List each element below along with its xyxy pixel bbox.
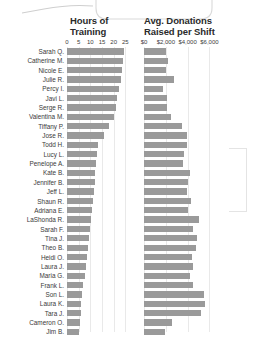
hours-bar[interactable] xyxy=(67,282,83,288)
chart-row[interactable]: Tiffany P. xyxy=(0,122,253,131)
chart-row[interactable]: Sarah F. xyxy=(0,225,253,234)
hours-bar[interactable] xyxy=(67,301,81,307)
chart-row[interactable]: Shaun R. xyxy=(0,197,253,206)
donations-bar[interactable] xyxy=(144,114,171,120)
donations-bar[interactable] xyxy=(144,273,190,279)
hours-bar[interactable] xyxy=(67,263,86,269)
hours-bar[interactable] xyxy=(67,273,85,279)
chart-row[interactable]: Tara J. xyxy=(0,309,253,318)
chart-row[interactable]: Nicole E. xyxy=(0,66,253,75)
donations-bar[interactable] xyxy=(144,160,183,166)
chart-row[interactable]: Javi L. xyxy=(0,94,253,103)
donations-bar[interactable] xyxy=(144,310,201,316)
chart-row[interactable]: Valentina M. xyxy=(0,112,253,121)
donations-bar[interactable] xyxy=(144,58,168,64)
chart-row[interactable]: Sarah Q. xyxy=(0,47,253,56)
chart-row[interactable]: Lucy L. xyxy=(0,150,253,159)
chart-row[interactable]: Frank L. xyxy=(0,281,253,290)
hours-bar[interactable] xyxy=(67,207,92,213)
donations-bar[interactable] xyxy=(144,95,167,101)
hours-bar[interactable] xyxy=(67,95,117,101)
hours-bar[interactable] xyxy=(67,123,109,129)
chart-row[interactable]: Serge R. xyxy=(0,103,253,112)
donations-axis-ticks: $0$2,000$4,000$6,000 xyxy=(0,38,253,47)
chart-row[interactable]: Kate B. xyxy=(0,168,253,177)
donations-bar[interactable] xyxy=(144,67,166,73)
donations-bar[interactable] xyxy=(144,76,174,82)
chart-row[interactable]: Heidi O. xyxy=(0,253,253,262)
donations-bar[interactable] xyxy=(144,216,199,222)
donations-bar[interactable] xyxy=(144,329,165,335)
donations-bar[interactable] xyxy=(144,263,193,269)
hours-bar[interactable] xyxy=(67,151,97,157)
chart-row[interactable]: Cameron O. xyxy=(0,318,253,327)
hours-bar[interactable] xyxy=(67,310,81,316)
donations-bar[interactable] xyxy=(144,301,205,307)
hours-bar[interactable] xyxy=(67,198,93,204)
donations-bar[interactable] xyxy=(144,319,172,325)
hours-bar[interactable] xyxy=(67,48,124,54)
hours-bar[interactable] xyxy=(67,291,82,297)
hours-bar[interactable] xyxy=(67,132,104,138)
hours-bar[interactable] xyxy=(67,67,122,73)
chart-row[interactable]: Catherine M. xyxy=(0,56,253,65)
hours-bar[interactable] xyxy=(67,160,96,166)
donations-bar[interactable] xyxy=(144,235,197,241)
chart-row[interactable]: Laura J. xyxy=(0,262,253,271)
chart-rows: Sarah Q.Catherine M.Nicole E.Julie R.Per… xyxy=(0,47,253,332)
hours-bar[interactable] xyxy=(67,86,119,92)
hours-bar[interactable] xyxy=(67,188,94,194)
chart-page: Hours of Training Avg. Donations Raised … xyxy=(0,0,253,337)
chart-row[interactable]: Jim B. xyxy=(0,327,253,336)
chart-2-title: Avg. Donations Raised per Shift xyxy=(144,16,215,37)
axis-tick-label: $4,000 xyxy=(178,38,196,47)
chart-row[interactable]: Maria G. xyxy=(0,271,253,280)
hours-bar[interactable] xyxy=(67,245,88,251)
hours-bar[interactable] xyxy=(67,226,90,232)
chart-row[interactable]: Jeff L. xyxy=(0,187,253,196)
chart-row[interactable]: LaShonda R. xyxy=(0,215,253,224)
hours-bar[interactable] xyxy=(67,58,123,64)
donations-bar[interactable] xyxy=(144,282,193,288)
donations-bar[interactable] xyxy=(144,132,187,138)
chart-row[interactable]: Penelope A. xyxy=(0,159,253,168)
hours-bar[interactable] xyxy=(67,179,95,185)
donations-bar[interactable] xyxy=(144,170,190,176)
donations-bar[interactable] xyxy=(144,86,163,92)
donations-bar[interactable] xyxy=(144,245,196,251)
chart-row[interactable]: Percy I. xyxy=(0,84,253,93)
donations-bar[interactable] xyxy=(144,104,167,110)
hours-bar[interactable] xyxy=(67,235,89,241)
row-label: Cameron O. xyxy=(29,318,64,327)
hours-bar[interactable] xyxy=(67,104,116,110)
hours-bar[interactable] xyxy=(67,114,114,120)
donations-bar[interactable] xyxy=(144,142,187,148)
hours-bar[interactable] xyxy=(67,254,87,260)
donations-bar[interactable] xyxy=(144,226,193,232)
axis-tick-label: $6,000 xyxy=(200,38,218,47)
chart-row[interactable]: Son L. xyxy=(0,290,253,299)
donations-bar[interactable] xyxy=(144,151,184,157)
chart-row[interactable]: Jennifer B. xyxy=(0,178,253,187)
chart-row[interactable]: Adriana E. xyxy=(0,206,253,215)
donations-bar[interactable] xyxy=(144,207,188,213)
chart-row[interactable]: Tina J. xyxy=(0,234,253,243)
donations-bar[interactable] xyxy=(144,291,204,297)
donations-bar[interactable] xyxy=(144,48,166,54)
chart-row[interactable]: Julie R. xyxy=(0,75,253,84)
hours-bar[interactable] xyxy=(67,319,80,325)
chart-row[interactable]: Todd H. xyxy=(0,140,253,149)
donations-bar[interactable] xyxy=(144,188,187,194)
hours-bar[interactable] xyxy=(67,76,121,82)
hours-bar[interactable] xyxy=(67,142,98,148)
donations-bar[interactable] xyxy=(144,198,191,204)
hours-bar[interactable] xyxy=(67,170,95,176)
donations-bar[interactable] xyxy=(144,254,192,260)
hours-bar[interactable] xyxy=(67,329,79,335)
chart-row[interactable]: Jose R. xyxy=(0,131,253,140)
chart-row[interactable]: Theo B. xyxy=(0,243,253,252)
chart-row[interactable]: Laura K. xyxy=(0,299,253,308)
hours-bar[interactable] xyxy=(67,216,91,222)
donations-bar[interactable] xyxy=(144,179,188,185)
donations-bar[interactable] xyxy=(144,123,182,129)
